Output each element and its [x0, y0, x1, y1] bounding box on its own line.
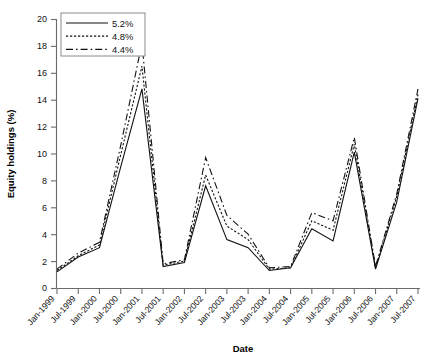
y-tick-label: 14 [37, 95, 47, 105]
legend-label: 4.4% [112, 44, 133, 55]
legend-label: 4.8% [112, 31, 133, 42]
equity-holdings-line-chart: 02468101214161820 Equity holdings (%) Ja… [0, 0, 430, 362]
y-tick-label: 0 [42, 283, 47, 293]
legend: 5.2%4.8%4.4% [61, 13, 145, 56]
x-axis-label: Date [233, 343, 254, 354]
y-tick-label: 10 [37, 149, 47, 159]
y-tick-label: 16 [37, 68, 47, 78]
y-tick-label: 12 [37, 122, 47, 132]
y-tick-label: 4 [42, 230, 47, 240]
legend-items: 5.2%4.8%4.4% [66, 18, 133, 55]
legend-label: 5.2% [112, 18, 133, 29]
y-tick-label: 8 [42, 176, 47, 186]
y-tick-label: 20 [37, 14, 47, 24]
y-tick-label: 2 [42, 257, 47, 267]
y-tick-label: 6 [42, 203, 47, 213]
y-axis-label: Equity holdings (%) [5, 110, 16, 199]
y-tick-label: 18 [37, 41, 47, 51]
chart-figure: 02468101214161820 Equity holdings (%) Ja… [0, 0, 430, 362]
